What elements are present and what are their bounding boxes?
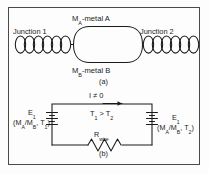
metal-b-path xyxy=(74,45,143,63)
temp-symbol: T xyxy=(90,109,95,118)
resistor-subscript: wire xyxy=(99,136,108,142)
metal-a-rest: -metal A xyxy=(82,14,110,23)
metal-b-label: MB-metal B xyxy=(72,67,110,75)
emf-right-slash: /M xyxy=(169,123,177,132)
junction-1-label: Junction 1 xyxy=(13,28,47,35)
emf-right-close-paren: ) xyxy=(191,123,193,132)
emf-left-close-paren: ) xyxy=(47,118,49,127)
metal-a-label: MA-metal A xyxy=(72,15,110,23)
metal-a-subscript: A xyxy=(78,20,82,26)
metal-b-subscript: B xyxy=(78,72,82,78)
emf-left-detail-label: (MA/MB, T1) xyxy=(13,119,50,126)
panel-b-caption: (b) xyxy=(99,150,108,157)
emf-right-sub-b: B xyxy=(177,129,180,135)
emf-right-symbol-label: E1 xyxy=(172,114,180,121)
resistor-label: Rwire xyxy=(94,131,109,138)
panel-a-caption: (a) xyxy=(99,78,108,85)
emf-left-comma-t: , T xyxy=(36,118,44,127)
emf-left-slash: /M xyxy=(25,118,33,127)
temp-subscript-2: 2 xyxy=(110,115,113,121)
junction-1-coil xyxy=(15,36,70,53)
metal-loop xyxy=(71,27,143,63)
junction-2-coil xyxy=(143,36,198,53)
temp-operator: > T xyxy=(97,109,110,118)
current-arrow xyxy=(103,101,122,105)
thermocouple-figure: Junction 1 Junction 2 MA-metal A MB-meta… xyxy=(0,0,209,174)
emf-right-comma-t: , T xyxy=(180,123,188,132)
emf-left-sub-b: B xyxy=(33,124,36,130)
metal-a-path xyxy=(74,27,143,45)
emf-left-symbol-label: E1 xyxy=(28,109,36,116)
junction-2-label: Junction 2 xyxy=(140,28,174,35)
current-label: I ≠ 0 xyxy=(89,92,103,99)
metal-b-rest: -metal B xyxy=(82,66,110,75)
temperature-relation-label: T1 > T2 xyxy=(90,110,113,117)
emf-right-sub-a: A xyxy=(165,129,168,135)
emf-right-detail-label: (MA/MB, T2) xyxy=(157,124,194,131)
emf-left-sub-a: A xyxy=(21,124,24,130)
